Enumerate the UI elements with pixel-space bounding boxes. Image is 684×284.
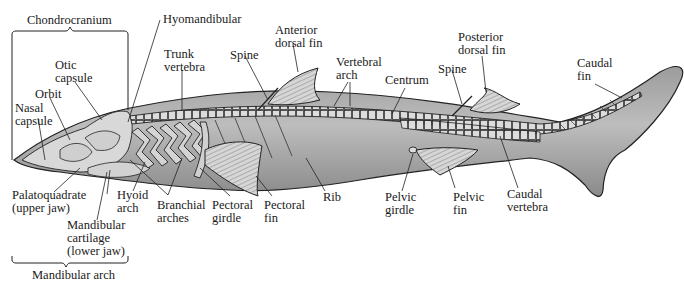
label-trunk-vertebra: Trunkvertebra [164, 48, 205, 74]
label-pelvic-fin: Pelvicfin [453, 191, 484, 217]
label-chondrocranium: Chondrocranium [27, 14, 112, 27]
label-hyoid-arch: Hyoidarch [117, 189, 148, 215]
label-caudal-vertebra: Caudalvertebra [507, 188, 548, 214]
label-otic-capsule: Oticcapsule [55, 59, 92, 85]
label-pelvic-girdle: Pelvicgirdle [385, 191, 416, 217]
posterior-dorsal-fin-art [470, 88, 520, 113]
chondrocranium-bracket [12, 27, 128, 40]
label-spine-posterior: Spine [438, 63, 466, 76]
label-mandibular-arch: Mandibular arch [32, 269, 115, 282]
label-posterior-dorsal-fin: Posteriordorsal fin [458, 31, 506, 57]
label-pectoral-girdle: Pectoralgirdle [212, 199, 253, 225]
label-spine-anterior: Spine [230, 49, 258, 62]
label-vertebral-arch: Vertebralarch [336, 56, 382, 82]
label-caudal-fin: Caudalfin [577, 57, 612, 83]
label-centrum: Centrum [385, 74, 429, 87]
label-palatoquadrate: Palatoquadrate(upper jaw) [12, 189, 86, 215]
anterior-dorsal-fin-art [268, 68, 320, 105]
label-hyomandibular: Hyomandibular [163, 13, 241, 26]
label-rib: Rib [323, 191, 341, 204]
label-mandibular-cartilage: Mandibularcartilage(lower jaw) [67, 219, 125, 258]
label-pectoral-fin: Pectoralfin [264, 199, 305, 225]
label-nasal-capsule: Nasalcapsule [15, 102, 52, 128]
shark-skeleton-diagram: Chondrocranium Hyomandibular Oticcapsule… [0, 0, 684, 284]
label-orbit: Orbit [35, 88, 61, 101]
label-branchial-arches: Branchialarches [157, 199, 206, 225]
label-anterior-dorsal-fin: Anteriordorsal fin [275, 24, 323, 50]
